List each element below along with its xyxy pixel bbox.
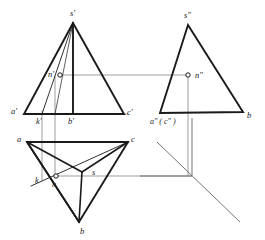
label-s-prime: s'	[70, 8, 75, 18]
front-view-point-n-marker	[58, 73, 62, 77]
label-s-double-prime: s"	[184, 10, 191, 20]
label-a-c-double-prime: a" ( c" )	[150, 117, 176, 126]
label-b-top: b	[80, 226, 84, 236]
label-b-side: b	[247, 110, 251, 120]
label-a-top: a	[17, 134, 21, 144]
label-n-top: n	[52, 179, 56, 189]
label-n-double-prime: n"	[195, 70, 203, 80]
label-b-prime: b'	[68, 116, 74, 126]
projection-drawing: s' a' c' k' b' n' s" a" ( c" ) b n" a c …	[0, 0, 265, 240]
label-c-top: c	[131, 134, 135, 144]
label-a-prime: a'	[11, 106, 17, 116]
label-n-prime: n'	[48, 69, 54, 79]
side-view-point-n-marker	[186, 73, 190, 77]
label-c-prime: c'	[127, 107, 133, 117]
label-k-top: k	[35, 175, 39, 185]
label-k-prime: k'	[36, 116, 42, 126]
top-view-point-n-marker	[54, 174, 58, 178]
drawing-canvas: s' a' c' k' b' n' s" a" ( c" ) b n" a c …	[0, 0, 265, 240]
